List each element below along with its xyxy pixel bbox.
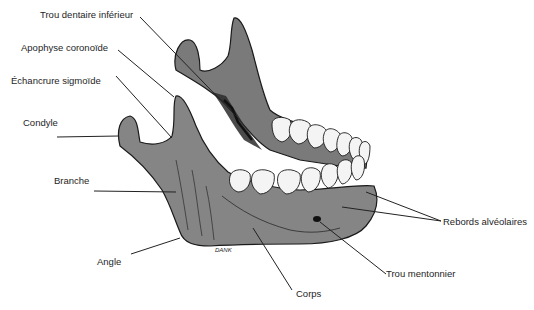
leader-apophyse <box>118 50 174 97</box>
tooth <box>321 164 338 188</box>
mental-foramen <box>313 216 321 222</box>
label-condyle: Condyle <box>23 117 58 128</box>
label-trou-mentonnier: Trou mentonnier <box>386 268 455 279</box>
label-corps: Corps <box>296 288 321 299</box>
label-echancrure-sigmoide: Échancrure sigmoïde <box>11 75 101 86</box>
label-angle: Angle <box>97 256 121 267</box>
tooth <box>337 160 352 184</box>
label-rebords-alveolaires: Rebords alvéolaires <box>443 216 527 227</box>
label-branche: Branche <box>54 175 89 186</box>
tooth <box>351 156 364 180</box>
label-trou-dentaire: Trou dentaire inférieur <box>40 9 133 20</box>
artist-signature: DANK <box>215 247 233 253</box>
mandible-diagram: DANK Trou dentaire inférieur Apophyse co… <box>0 0 534 310</box>
tooth <box>301 168 320 192</box>
leader-rebords-1 <box>366 192 441 221</box>
label-apophyse-coronoide: Apophyse coronoïde <box>21 42 108 53</box>
leader-angle <box>131 238 180 254</box>
leader-condyle <box>57 136 119 137</box>
